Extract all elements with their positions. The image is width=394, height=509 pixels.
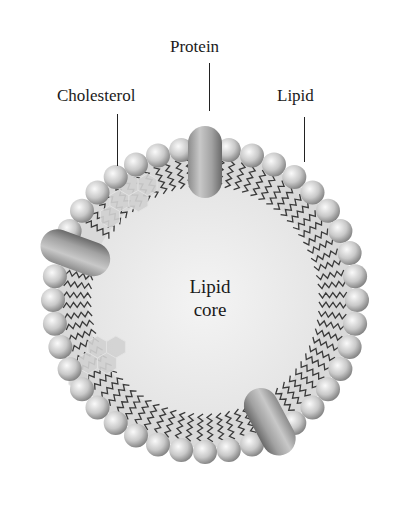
lipid-core-label-line1: Lipid [160,275,260,298]
lipid-core-label-line2: core [160,298,260,321]
cholesterol-leader-line [117,114,118,166]
top-protein-icon [188,126,222,198]
protein-leader-line [209,63,210,111]
protein-label: Protein [170,38,219,55]
lipid-leader-line [304,117,305,162]
cholesterol-label: Cholesterol [57,87,135,104]
lipoprotein-diagram [0,0,394,509]
lipid-label: Lipid [277,87,314,104]
lipid-core-label: Lipid core [160,275,260,321]
